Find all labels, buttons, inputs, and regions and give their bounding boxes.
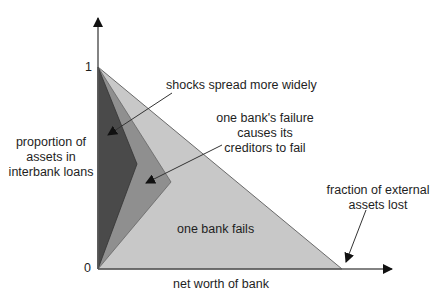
label-shocks-spread: shocks spread more widely <box>166 78 317 93</box>
y-axis-label-line: assets in <box>8 150 94 165</box>
label-creditors-fail: one bank's failure causes its creditors … <box>210 111 320 156</box>
y-axis-label: proportion of assets in interbank loans <box>8 135 94 180</box>
label-one-bank-fails: one bank fails <box>177 222 254 237</box>
arrow-external-assets <box>346 210 366 262</box>
y-axis-label-line: interbank loans <box>8 165 94 180</box>
y-tick-one: 1 <box>85 60 92 75</box>
label-external-assets: fraction of external assets lost <box>320 183 436 213</box>
label-line: causes its <box>210 126 320 141</box>
y-axis-label-line: proportion of <box>8 135 94 150</box>
x-axis-label: net worth of bank <box>173 277 269 292</box>
label-line: fraction of external <box>320 183 436 198</box>
label-line: assets lost <box>320 198 436 213</box>
origin-label: 0 <box>84 261 91 276</box>
label-line: creditors to fail <box>210 141 320 156</box>
label-line: one bank's failure <box>210 111 320 126</box>
